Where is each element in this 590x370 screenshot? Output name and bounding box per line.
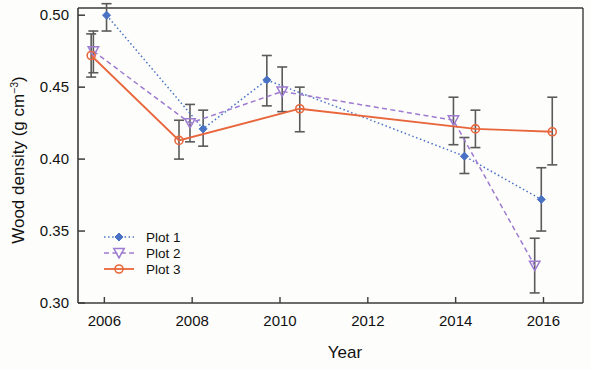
- legend-item-plot-1[interactable]: Plot 1: [104, 230, 181, 245]
- y-tick-label: 0.30: [40, 294, 69, 311]
- legend-item-plot-3[interactable]: Plot 3: [104, 262, 181, 277]
- y-axis-title-text: Wood density (g cm: [9, 94, 28, 244]
- y-tick-label: 0.40: [40, 150, 69, 167]
- x-tick-label: 2010: [263, 312, 296, 329]
- x-tick-label: 2008: [175, 312, 208, 329]
- x-tick-label: 2014: [439, 312, 472, 329]
- legend-label: Plot 1: [146, 230, 181, 245]
- error-bar-group-plot-3: [86, 34, 557, 165]
- data-point-marker-plot-1: [537, 195, 545, 203]
- data-point-marker-plot-1: [460, 152, 468, 160]
- legend-label: Plot 3: [146, 262, 181, 277]
- y-tick-label: 0.50: [40, 6, 69, 23]
- x-tick-label: 2016: [527, 312, 560, 329]
- error-bar-group-plot-1: [102, 4, 547, 231]
- series-plot-3: [87, 51, 556, 144]
- svg-text:Wood density (g cm−3): Wood density (g cm−3): [8, 76, 28, 244]
- y-axis-title: Wood density (g cm−3): [8, 76, 28, 244]
- x-axis-ticks: 200620082010201220142016: [88, 297, 561, 329]
- chart-legend: Plot 1Plot 2Plot 3: [104, 230, 181, 277]
- x-axis-title: Year: [328, 343, 363, 362]
- legend-item-plot-2[interactable]: Plot 2: [104, 246, 181, 261]
- y-axis-title-tail: ): [9, 76, 28, 82]
- data-point-marker-plot-1: [103, 11, 111, 19]
- wood-density-line-chart: 0.300.350.400.450.50 2006200820102012201…: [0, 0, 590, 370]
- series-line-plot-3: [91, 55, 552, 140]
- x-tick-label: 2006: [88, 312, 121, 329]
- y-axis-title-superscript: −3: [8, 82, 20, 94]
- y-tick-label: 0.35: [40, 222, 69, 239]
- x-tick-label: 2012: [351, 312, 384, 329]
- series-line-plot-1: [107, 15, 542, 199]
- legend-label: Plot 2: [146, 246, 181, 261]
- y-tick-label: 0.45: [40, 78, 69, 95]
- chart-figure: 0.300.350.400.450.50 2006200820102012201…: [0, 0, 590, 370]
- legend-marker-icon: [115, 233, 123, 241]
